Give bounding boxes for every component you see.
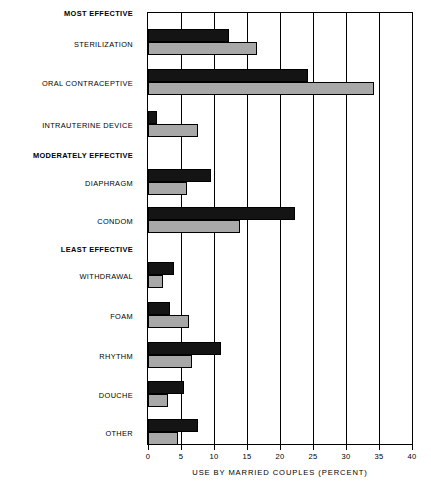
bar-dark <box>148 262 174 275</box>
bar-dark <box>148 419 198 432</box>
x-axis-tick-label: 15 <box>235 452 259 461</box>
x-axis-tick <box>346 445 347 450</box>
x-axis-tick-label: 5 <box>169 452 193 461</box>
x-axis-title: USE BY MARRIED COUPLES (PERCENT) <box>147 468 413 477</box>
bar-dark <box>148 207 295 220</box>
x-axis-tick <box>379 445 380 450</box>
bar-dark <box>148 29 229 42</box>
bar-dark <box>148 111 157 124</box>
x-axis-tick-label: 35 <box>367 452 391 461</box>
x-axis-tick-label: 40 <box>400 452 424 461</box>
x-axis-tick <box>247 445 248 450</box>
bar-dark <box>148 342 221 355</box>
x-axis-tick-label: 25 <box>301 452 325 461</box>
group-heading-label: MODERATELY EFFECTIVE <box>0 151 133 161</box>
group-heading-label: LEAST EFFECTIVE <box>0 245 133 255</box>
bar-dark <box>148 169 211 182</box>
bar-dark <box>148 302 170 315</box>
category-label: ORAL CONTRACEPTIVE <box>0 79 133 89</box>
category-label: OTHER <box>0 429 133 439</box>
bar-light <box>148 355 192 368</box>
category-label: INTRAUTERINE DEVICE <box>0 121 133 131</box>
plot-area <box>147 12 413 445</box>
category-label: DOUCHE <box>0 391 133 401</box>
category-label: DIAPHRAGM <box>0 179 133 189</box>
x-axis-tick-label: 0 <box>136 452 160 461</box>
x-axis-tick-label: 10 <box>202 452 226 461</box>
bar-light <box>148 220 240 233</box>
bar-light <box>148 315 189 328</box>
bar-light <box>148 182 187 195</box>
x-axis-tick <box>280 445 281 450</box>
bars-layer <box>148 13 412 444</box>
bar-dark <box>148 69 308 82</box>
category-label: STERILIZATION <box>0 40 133 50</box>
category-label: RHYTHM <box>0 352 133 362</box>
bar-light <box>148 42 257 55</box>
x-axis-tick <box>214 445 215 450</box>
x-axis-tick-label: 30 <box>334 452 358 461</box>
category-label: WITHDRAWAL <box>0 272 133 282</box>
bar-light <box>148 432 178 445</box>
category-label: CONDOM <box>0 217 133 227</box>
bar-light <box>148 394 168 407</box>
category-label: FOAM <box>0 312 133 322</box>
x-axis-tick <box>181 445 182 450</box>
category-label-column: MOST EFFECTIVESTERILIZATIONORAL CONTRACE… <box>0 0 141 445</box>
x-axis-tick <box>313 445 314 450</box>
bar-light <box>148 275 163 288</box>
x-axis-tick <box>148 445 149 450</box>
x-axis-tick-label: 20 <box>268 452 292 461</box>
group-heading-label: MOST EFFECTIVE <box>0 9 133 19</box>
x-axis-tick <box>412 445 413 450</box>
contraceptive-use-bar-chart: MOST EFFECTIVESTERILIZATIONORAL CONTRACE… <box>0 0 431 497</box>
bar-light <box>148 82 374 95</box>
bar-light <box>148 124 198 137</box>
bar-dark <box>148 381 184 394</box>
